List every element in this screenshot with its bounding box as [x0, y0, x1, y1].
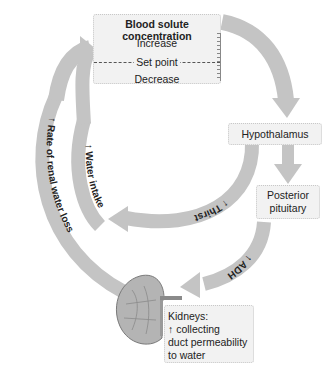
- kidneys-line4: to water: [168, 349, 250, 362]
- arrow-to-hypothalamus: [222, 22, 286, 100]
- scale-ticks: [217, 33, 221, 81]
- blood-solute-box: Blood solute concentration Increase Set …: [93, 14, 221, 84]
- kidneys-box: Kidneys: ↑ collecting duct permeability …: [164, 305, 254, 363]
- set-point-wrap: Set point: [94, 56, 220, 68]
- kidneys-line2: collecting: [176, 323, 220, 335]
- pituitary-line2: pituitary: [257, 202, 319, 215]
- pituitary-line1: Posterior: [257, 189, 319, 202]
- posterior-pituitary-box: Posterior pituitary: [256, 185, 320, 219]
- hypothalamus-box: Hypothalamus: [228, 123, 322, 145]
- kidneys-line2-wrap: ↑ collecting: [168, 323, 250, 336]
- kidneys-line3: duct permeability: [168, 336, 250, 349]
- arrowhead-adh: [180, 272, 200, 298]
- decrease-label: Decrease: [94, 73, 220, 85]
- kidneys-line1: Kidneys:: [168, 310, 250, 323]
- arrowhead-hypothalamus: [272, 98, 300, 118]
- up-arrow-icon: ↑: [168, 323, 173, 335]
- increase-label: Increase: [94, 37, 220, 49]
- arrowhead-thirst: [108, 206, 128, 232]
- arrowhead-pituitary: [274, 164, 302, 184]
- set-point-label: Set point: [134, 56, 179, 68]
